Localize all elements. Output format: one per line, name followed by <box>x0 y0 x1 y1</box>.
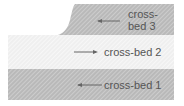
cross-bed-3-label-line1: cross- <box>128 9 158 20</box>
cross-bed-1-label: cross-bed 1 <box>104 80 161 91</box>
cross-bed-3-label-line2: bed 3 <box>128 21 156 32</box>
cross-bed-2-label: cross-bed 2 <box>104 47 161 58</box>
